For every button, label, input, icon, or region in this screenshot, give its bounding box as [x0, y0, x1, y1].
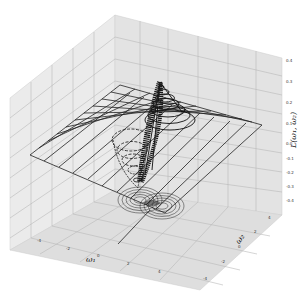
svg-text:-0.1: -0.1	[286, 156, 294, 161]
svg-text:-4: -4	[37, 238, 41, 243]
svg-text:-0.3: -0.3	[286, 184, 294, 189]
svg-text:0.1: 0.1	[286, 121, 293, 126]
svg-text:-0.4: -0.4	[286, 198, 294, 203]
x-axis-label: ω₁	[86, 255, 96, 264]
svg-text:-0.2: -0.2	[286, 170, 294, 175]
svg-text:0.4: 0.4	[286, 58, 293, 63]
svg-text:0.0: 0.0	[286, 141, 293, 146]
plot-3d: ω₁ ω₂ L(ω₁, ω₂) 0.4 0.3 0.2 0.1 0.0 -0.1…	[0, 0, 305, 291]
svg-text:-2: -2	[66, 246, 70, 251]
svg-text:0.3: 0.3	[286, 79, 293, 84]
figure: ω₁ ω₂ L(ω₁, ω₂) 0.4 0.3 0.2 0.1 0.0 -0.1…	[0, 0, 305, 291]
svg-text:-2: -2	[221, 259, 225, 264]
svg-text:0.2: 0.2	[286, 100, 293, 105]
svg-text:-4: -4	[203, 276, 207, 281]
